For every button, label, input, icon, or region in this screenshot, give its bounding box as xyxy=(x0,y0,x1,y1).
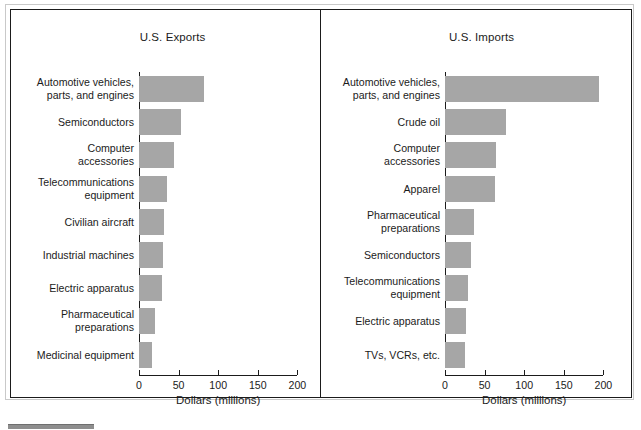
bar-row: TVs, VCRs, etc. xyxy=(445,342,465,368)
bar xyxy=(445,176,495,202)
x-axis-tick xyxy=(218,370,219,375)
x-axis-tick-label: 200 xyxy=(289,379,307,391)
x-axis-tick-label: 100 xyxy=(209,379,227,391)
bar-row: Pharmaceutical preparations xyxy=(139,308,155,334)
bar-row: Electric apparatus xyxy=(139,275,162,301)
x-axis-tick-label: 50 xyxy=(173,379,185,391)
bar-row: Crude oil xyxy=(445,109,506,135)
bar-row: Automotive vehicles, parts, and engines xyxy=(139,76,204,102)
bar-row: Semiconductors xyxy=(445,242,471,268)
bar-category-label: Medicinal equipment xyxy=(37,348,134,361)
bar-row: Electric apparatus xyxy=(445,308,466,334)
bar xyxy=(445,308,466,334)
bar-category-label: Telecommunications equipment xyxy=(344,275,440,301)
bar-category-label: Automotive vehicles, parts, and engines xyxy=(343,76,440,102)
x-axis-tick-label: 100 xyxy=(515,379,533,391)
bar-row: Computer accessories xyxy=(139,142,174,168)
bar-category-label: Apparel xyxy=(403,182,440,195)
x-axis-tick xyxy=(258,370,259,375)
bar-category-label: Civilian aircraft xyxy=(65,215,134,228)
bar xyxy=(139,275,162,301)
x-axis-tick xyxy=(564,370,565,375)
bar xyxy=(445,142,496,168)
bar xyxy=(139,308,155,334)
bar-category-label: Pharmaceutical preparations xyxy=(61,308,134,334)
bar-category-label: Computer accessories xyxy=(78,142,134,168)
bar xyxy=(139,109,181,135)
bar-row: Automotive vehicles, parts, and engines xyxy=(445,76,599,102)
panel-us-imports: U.S. Imports Automotive vehicles, parts,… xyxy=(321,9,632,398)
panel-title-imports: U.S. Imports xyxy=(321,31,632,43)
bar xyxy=(445,275,468,301)
bar xyxy=(445,342,465,368)
x-axis-tick xyxy=(297,370,298,375)
x-axis-line xyxy=(445,375,603,376)
bar-category-label: Semiconductors xyxy=(58,116,134,129)
bar xyxy=(139,342,152,368)
bottom-rule xyxy=(8,424,94,429)
bar-category-label: Automotive vehicles, parts, and engines xyxy=(37,76,134,102)
bar-row: Telecommunications equipment xyxy=(445,275,468,301)
bar-category-label: Crude oil xyxy=(398,116,440,129)
bar-row: Pharmaceutical preparations xyxy=(445,209,474,235)
x-axis-title: Dollars (millions) xyxy=(176,394,260,406)
x-axis-tick-label: 200 xyxy=(595,379,613,391)
x-axis-tick xyxy=(524,370,525,375)
x-axis-tick xyxy=(445,370,446,375)
bar-category-label: Semiconductors xyxy=(364,249,440,262)
x-axis-tick xyxy=(485,370,486,375)
panel-title-exports: U.S. Exports xyxy=(10,31,321,43)
bar-category-label: Industrial machines xyxy=(43,249,134,262)
bar-row: Computer accessories xyxy=(445,142,496,168)
bar-row: Telecommunications equipment xyxy=(139,176,167,202)
x-axis-tick-label: 0 xyxy=(442,379,448,391)
bar xyxy=(445,76,599,102)
bar xyxy=(139,242,163,268)
x-axis-tick-label: 150 xyxy=(555,379,573,391)
bar-row: Semiconductors xyxy=(139,109,181,135)
bar xyxy=(445,109,506,135)
bar-category-label: TVs, VCRs, etc. xyxy=(365,348,440,361)
bar-row: Medicinal equipment xyxy=(139,342,152,368)
bar-category-label: Pharmaceutical preparations xyxy=(367,209,440,235)
bar-category-label: Electric apparatus xyxy=(49,282,134,295)
bar-category-label: Electric apparatus xyxy=(355,315,440,328)
x-axis-tick-label: 0 xyxy=(136,379,142,391)
bar xyxy=(139,176,167,202)
plot-area-exports: Automotive vehicles, parts, and enginesS… xyxy=(10,72,321,368)
x-axis-tick-label: 150 xyxy=(249,379,267,391)
x-axis-tick-label: 50 xyxy=(479,379,491,391)
bar xyxy=(139,142,174,168)
bar-row: Civilian aircraft xyxy=(139,209,164,235)
x-axis-title: Dollars (millions) xyxy=(482,394,566,406)
panel-us-exports: U.S. Exports Automotive vehicles, parts,… xyxy=(10,9,321,398)
x-axis-tick xyxy=(139,370,140,375)
bar-row: Industrial machines xyxy=(139,242,163,268)
bar xyxy=(445,242,471,268)
bar xyxy=(139,209,164,235)
bar xyxy=(445,209,474,235)
x-axis-line xyxy=(139,375,297,376)
x-axis-tick xyxy=(179,370,180,375)
plot-area-imports: Automotive vehicles, parts, and enginesC… xyxy=(321,72,632,368)
bar xyxy=(139,76,204,102)
bar-category-label: Telecommunications equipment xyxy=(38,176,134,202)
x-axis-tick xyxy=(603,370,604,375)
bar-category-label: Computer accessories xyxy=(384,142,440,168)
bar-row: Apparel xyxy=(445,176,495,202)
